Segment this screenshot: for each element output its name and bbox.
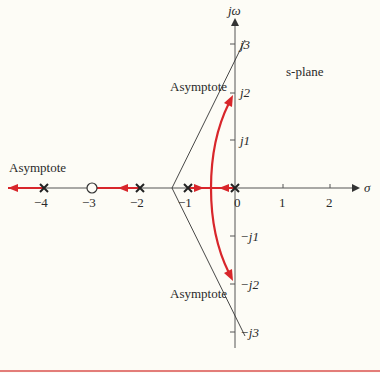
root-locus-plot bbox=[0, 0, 380, 373]
locus-upper-arrow bbox=[224, 95, 233, 107]
zero-icon bbox=[87, 183, 97, 193]
tick-label-imag: j2 bbox=[240, 86, 250, 99]
tick-label-imag: −j1 bbox=[240, 230, 259, 243]
bottom-rule bbox=[0, 370, 380, 372]
locus-lower-branch bbox=[211, 188, 229, 273]
root-locus-figure: jω σ s-plane −4 −3 −2 −1 0 1 2 j1 j2 j3 … bbox=[0, 0, 380, 373]
asymptote-label-lower: Asymptote bbox=[170, 287, 227, 300]
real-axis-ticks bbox=[283, 184, 330, 188]
asymptote-lower bbox=[172, 188, 245, 336]
locus-upper-branch bbox=[211, 103, 229, 188]
tick-label-real: −2 bbox=[130, 196, 144, 209]
asymptote-label-upper: Asymptote bbox=[170, 80, 227, 93]
asymptote-label-left: Asymptote bbox=[9, 161, 66, 174]
tick-label-real: 1 bbox=[279, 196, 286, 209]
locus-lower-arrow bbox=[224, 269, 233, 281]
real-axis-label: σ bbox=[364, 181, 370, 194]
asymptote-upper bbox=[172, 40, 245, 188]
tick-label-real: 2 bbox=[326, 196, 333, 209]
tick-label-imag: j1 bbox=[240, 134, 250, 147]
tick-label-real: −3 bbox=[82, 196, 96, 209]
plane-label: s-plane bbox=[286, 65, 324, 78]
imag-axis-label: jω bbox=[228, 4, 241, 17]
tick-label-imag: −j2 bbox=[240, 278, 259, 291]
tick-label-real: −4 bbox=[34, 196, 48, 209]
tick-label-imag: j3 bbox=[240, 38, 250, 51]
tick-label-imag: −j3 bbox=[240, 326, 259, 339]
tick-label-real: −1 bbox=[178, 196, 192, 209]
tick-label-real: 0 bbox=[234, 196, 241, 209]
